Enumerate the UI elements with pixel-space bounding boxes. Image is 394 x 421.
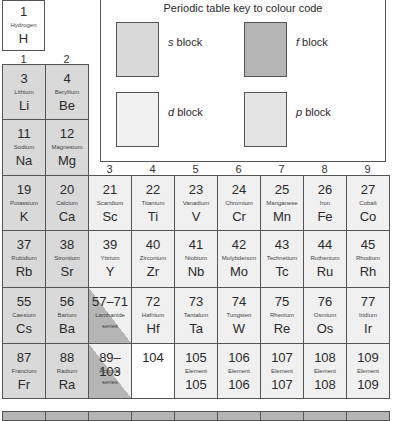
atomic-number: 41: [175, 238, 217, 252]
atomic-number: 11: [3, 127, 45, 141]
swatch-d-block: [116, 92, 159, 147]
element-cell: 108Element108: [303, 343, 347, 399]
atomic-number: 4: [46, 72, 88, 86]
element-name: Technetium: [261, 255, 303, 262]
element-symbol: Mo: [218, 265, 260, 279]
group-label-4: 4: [131, 163, 174, 175]
element-cell: 22TitaniumTi: [131, 175, 175, 231]
element-cell: 3 Lithium Li: [2, 64, 46, 120]
atomic-number: 88: [46, 351, 88, 365]
atomic-number: 1: [3, 5, 44, 19]
element-symbol: Tc: [261, 265, 303, 279]
element-cell: 37RubidiumRb: [2, 230, 46, 288]
f-block-cell: [260, 411, 304, 421]
element-cell: 55CaesiumCs: [2, 287, 46, 344]
element-symbol: Re: [261, 322, 303, 336]
atomic-number: 23: [175, 183, 217, 197]
f-block-cell: [174, 411, 218, 421]
element-symbol: Fr: [3, 378, 45, 392]
atomic-number: 40: [132, 238, 174, 252]
element-cell: 20CalciumCa: [45, 175, 89, 231]
element-symbol: 108: [304, 378, 346, 392]
element-symbol: H: [3, 32, 44, 46]
group-label-5: 5: [174, 163, 217, 175]
element-cell-hydrogen: 1 Hydrogen H: [2, 0, 45, 51]
atomic-number: 24: [218, 183, 260, 197]
group-label-7: 7: [260, 163, 303, 175]
element-cell: 77IridiumIr: [346, 287, 390, 344]
series-name: Actinide: [89, 368, 131, 375]
element-name: Sodium: [3, 144, 45, 151]
element-symbol: Fe: [304, 210, 346, 224]
element-name: Caesium: [3, 312, 45, 319]
group-label-8: 8: [303, 163, 346, 175]
colour-key-legend: Periodic table key to colour code s bloc…: [100, 0, 386, 162]
element-cell: 88RadiumRa: [45, 343, 89, 399]
element-name: Titanium: [132, 200, 174, 207]
series-name: Lanthanide: [89, 312, 131, 319]
element-cell: 109Element109: [346, 343, 390, 399]
element-cell: 73TantalumTa: [174, 287, 218, 344]
element-cell: 27CobaltCo: [346, 175, 390, 231]
f-block-cell: [346, 411, 390, 421]
element-symbol: 109: [347, 378, 389, 392]
series-label: series: [89, 379, 131, 386]
element-symbol: Ti: [132, 210, 174, 224]
atomic-number: 104: [132, 351, 174, 365]
element-symbol: Ir: [347, 322, 389, 336]
element-name: Cobalt: [347, 200, 389, 207]
element-symbol: Sc: [89, 210, 131, 224]
element-symbol: Os: [304, 322, 346, 336]
element-name: Ruthenium: [304, 255, 346, 262]
legend-label-p-block: p block: [296, 106, 331, 118]
element-cell: 76OsmiumOs: [303, 287, 347, 344]
element-cell: 43TechnetiumTc: [260, 230, 304, 288]
element-cell: 42MolybdenumMo: [217, 230, 261, 288]
element-symbol: 105: [175, 378, 217, 392]
atomic-number: 43: [261, 238, 303, 252]
element-cell: 40ZirconiumZr: [131, 230, 175, 288]
atomic-number: 73: [175, 295, 217, 309]
element-symbol: Y: [89, 265, 131, 279]
element-name: Niobium: [175, 255, 217, 262]
element-symbol: Na: [3, 154, 45, 168]
element-symbol: 107: [261, 378, 303, 392]
element-cell: 12 Magnesium Mg: [45, 119, 89, 176]
element-name: Yttrium: [89, 255, 131, 262]
atomic-number: 21: [89, 183, 131, 197]
f-block-cell: [303, 411, 347, 421]
element-symbol: V: [175, 210, 217, 224]
element-name: Tantalum: [175, 312, 217, 319]
element-cell: 38StrontiumSr: [45, 230, 89, 288]
element-symbol: Rh: [347, 265, 389, 279]
atomic-number: 3: [3, 72, 45, 86]
atomic-number: 75: [261, 295, 303, 309]
atomic-number: 72: [132, 295, 174, 309]
element-name: Element: [261, 368, 303, 375]
element-name: Beryllium: [46, 89, 88, 96]
element-cell: 74TungstenW: [217, 287, 261, 344]
element-symbol: Nb: [175, 265, 217, 279]
element-symbol: Rb: [3, 265, 45, 279]
element-name: Lithium: [3, 89, 45, 96]
f-block-cell: [131, 411, 175, 421]
atomic-number: 37: [3, 238, 45, 252]
group-label-6: 6: [217, 163, 260, 175]
atomic-number: 105: [175, 351, 217, 365]
element-symbol: W: [218, 322, 260, 336]
element-symbol: Co: [347, 210, 389, 224]
element-cell: 4 Beryllium Be: [45, 64, 89, 120]
element-name: Element: [304, 368, 346, 375]
element-cell: 23VanadiumV: [174, 175, 218, 231]
swatch-f-block: [244, 22, 287, 77]
element-name: Calcium: [46, 200, 88, 207]
element-cell: 107Element107: [260, 343, 304, 399]
element-cell: 21ScandiumSc: [88, 175, 132, 231]
element-name: Francium: [3, 368, 45, 375]
atomic-number: 87: [3, 351, 45, 365]
element-name: Strontium: [46, 255, 88, 262]
element-symbol: Ta: [175, 322, 217, 336]
atomic-number: 42: [218, 238, 260, 252]
atomic-number: 109: [347, 351, 389, 365]
element-name: Element: [175, 368, 217, 375]
